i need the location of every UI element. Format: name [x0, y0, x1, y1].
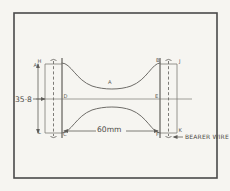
point-label-curve-centre: A: [108, 79, 112, 85]
width-dimension-label: 60mm: [97, 125, 121, 134]
point-label-centre-left: D: [64, 93, 68, 99]
point-label-upper-mid-left: A: [34, 62, 38, 68]
point-label-centre-right: E: [155, 93, 158, 99]
bearer-wire-label: BEARER WIRE: [185, 133, 229, 140]
point-label-bottom-mid-left: C: [63, 131, 67, 137]
point-label-bottom-right: F: [156, 131, 159, 137]
height-dimension-label: 35·8: [15, 95, 32, 104]
paper-background: [0, 0, 230, 191]
point-label-top-right: B: [156, 57, 160, 63]
point-label-bottom-left: L: [38, 129, 41, 135]
point-label-bottom-far-right: K: [179, 127, 183, 133]
sketch-page: 35·8 60mm BEARER WIRE H A D E B J L C F …: [0, 0, 230, 191]
point-label-top-left: H: [38, 58, 42, 64]
engineering-sketch-canvas: 35·8 60mm BEARER WIRE H A D E B J L C F …: [0, 0, 230, 191]
